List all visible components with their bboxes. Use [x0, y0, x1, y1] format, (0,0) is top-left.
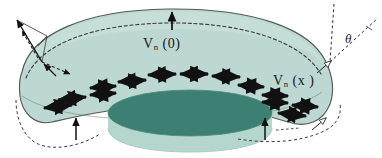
vn-x-symbol: V: [273, 73, 284, 88]
label-theta: θ: [345, 31, 351, 47]
disk: [108, 90, 272, 152]
label-vn-x: Vn (x ): [273, 73, 314, 89]
vn-x-subscript: n: [284, 79, 289, 89]
slanted-normal-dashed: [330, 18, 378, 62]
vn-x-argument: (x ): [292, 73, 314, 88]
double-arrow: [90, 93, 116, 95]
double-arrow: [262, 102, 288, 103]
figure-container: Vn (0) Vn (x ) θ: [0, 0, 382, 158]
double-arrow: [292, 105, 318, 107]
disk-top-face: [108, 90, 272, 136]
label-vn-zero: Vn (0): [143, 36, 180, 52]
disk-bottom-dashed-link: [276, 128, 300, 130]
double-arrow: [148, 74, 176, 75]
double-arrow: [238, 85, 264, 87]
double-arrow: [90, 86, 116, 88]
vn-zero-argument: (0): [162, 36, 180, 51]
double-arrow: [118, 80, 146, 82]
double-arrow: [212, 76, 240, 77]
vertical-reference-dashed: [330, 4, 334, 62]
double-arrow: [262, 95, 288, 96]
diagram-svg: [0, 0, 382, 158]
vn-zero-symbol: V: [143, 36, 154, 51]
vn-zero-subscript: n: [154, 42, 159, 52]
